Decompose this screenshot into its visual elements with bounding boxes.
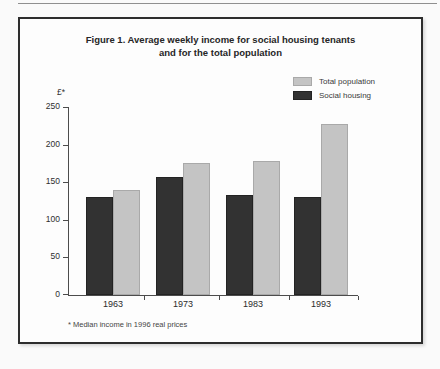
x-axis-label-1963: 1963 <box>86 299 140 309</box>
y-axis-label-150: 150 <box>29 176 60 186</box>
legend: Total populationSocial housing <box>293 77 375 105</box>
y-axis-label-100: 100 <box>29 214 60 224</box>
legend-item-social-housing: Social housing <box>293 91 375 100</box>
legend-item-total-population: Total population <box>293 77 375 86</box>
x-axis-tick-3 <box>358 296 359 300</box>
bar-social-housing-1993 <box>294 197 321 295</box>
bar-social-housing-1973 <box>156 177 183 295</box>
x-axis-label-1973: 1973 <box>156 299 210 309</box>
y-axis-label-200: 200 <box>29 139 60 149</box>
figure-title-line2: and for the total population <box>20 46 421 59</box>
figure-box: Figure 1. Average weekly income for soci… <box>18 17 423 344</box>
footnote: * Median income in 1996 real prices <box>68 320 187 329</box>
legend-swatch-social-housing <box>293 91 312 100</box>
bar-total-population-1973 <box>183 163 210 295</box>
bar-total-population-1963 <box>113 190 140 295</box>
y-axis-tick-150 <box>63 182 68 183</box>
y-axis-tick-200 <box>63 145 68 146</box>
y-axis-tick-50 <box>63 257 68 258</box>
bar-total-population-1983 <box>253 161 280 295</box>
y-axis-tick-0 <box>63 294 68 295</box>
x-axis-label-1993: 1993 <box>294 299 348 309</box>
y-axis-label-250: 250 <box>29 101 60 111</box>
bar-total-population-1993 <box>321 124 348 295</box>
y-axis-label-0: 0 <box>29 289 60 299</box>
figure-title: Figure 1. Average weekly income for soci… <box>20 33 421 59</box>
x-axis-label-1983: 1983 <box>226 299 280 309</box>
y-axis-tick-250 <box>63 107 68 108</box>
y-axis-tick-100 <box>63 220 68 221</box>
bar-social-housing-1983 <box>226 195 253 295</box>
x-axis-tick-1 <box>219 296 220 300</box>
plot-area: 0501001502002501963197319831993 <box>68 107 358 296</box>
figure-title-line1: Figure 1. Average weekly income for soci… <box>20 33 421 46</box>
bar-social-housing-1963 <box>86 197 113 295</box>
y-axis-label-50: 50 <box>29 251 60 261</box>
x-axis-tick-2 <box>289 296 290 300</box>
x-axis-tick-0 <box>144 296 145 300</box>
legend-label-social-housing: Social housing <box>319 91 371 100</box>
legend-swatch-total-population <box>293 77 312 86</box>
legend-label-total-population: Total population <box>319 77 375 86</box>
top-horizontal-rule <box>18 3 437 4</box>
y-axis-unit-label: £* <box>57 87 65 97</box>
